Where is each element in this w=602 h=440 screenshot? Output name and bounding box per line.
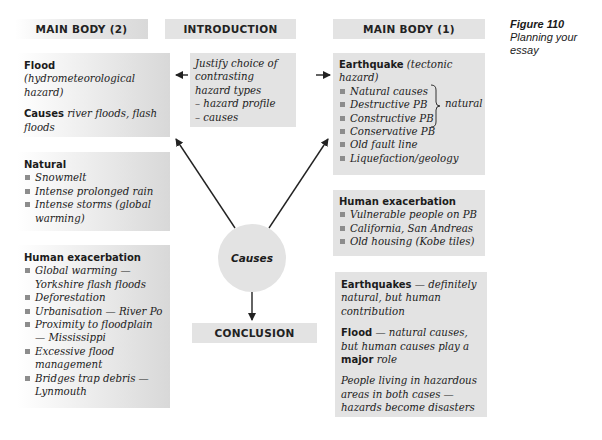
earthquake-list: Natural causes Destructive PB Constructi… (339, 85, 479, 165)
flood-human-title: Human exacerbation (24, 252, 141, 263)
conclusion-notes-box: Earthquakes — definitely natural, but hu… (335, 272, 487, 417)
flood-subtitle: (hydrometeorological hazard) (24, 73, 135, 97)
natural-title: Natural (24, 159, 66, 170)
flood-box: Flood (hydrometeorological hazard) Cause… (17, 53, 170, 137)
flood-human-exacerbation-box: Human exacerbation Global warming — York… (17, 245, 170, 408)
list-item: Intense storms (global warming) (24, 198, 163, 225)
list-item: Conservative PB (339, 125, 479, 138)
conclusion-major-label: major (341, 354, 373, 365)
list-item: Global warming — Yorkshire flash floods (24, 264, 163, 291)
list-item: Vulnerable people on PB (339, 208, 479, 221)
conclusion-flood-text-end: role (373, 354, 397, 365)
brace-icon (430, 84, 444, 128)
figure-title: Planning your essay (510, 31, 602, 57)
header-main-body-1: MAIN BODY (1) (333, 19, 485, 39)
natural-list: Snowmelt Intense prolonged rain Intense … (24, 171, 163, 225)
introduction-item: – causes (195, 111, 291, 124)
flood-causes-label: Causes (24, 108, 64, 119)
figure-number: Figure 110 (510, 18, 602, 31)
introduction-text: Justify choice of contrasting hazard typ… (195, 57, 291, 97)
list-item: Old fault line (339, 138, 479, 151)
list-item: Deforestation (24, 291, 163, 304)
introduction-box: Justify choice of contrasting hazard typ… (190, 53, 296, 127)
header-conclusion: CONCLUSION (192, 323, 317, 343)
brace-label: natural (445, 98, 483, 109)
introduction-item: – hazard profile (195, 97, 291, 110)
list-item: Excessive flood management (24, 345, 163, 372)
figure-caption: Figure 110 Planning your essay (510, 18, 602, 57)
list-item: Bridges trap debris — Lynmouth (24, 372, 163, 399)
list-item: Old housing (Kobe tiles) (339, 235, 479, 248)
arrow-upper-right-icon (269, 139, 328, 228)
earthquake-title: Earthquake (339, 59, 404, 70)
list-item: Intense prolonged rain (24, 185, 163, 198)
earthquake-human-title: Human exacerbation (339, 196, 456, 207)
conclusion-earthquakes-label: Earthquakes (341, 279, 412, 290)
list-item: California, San Andreas (339, 222, 479, 235)
list-item: Natural causes (339, 85, 479, 98)
list-item: Urbanisation — River Po (24, 305, 163, 318)
list-item: Proximity to floodplain — Mississippi (24, 318, 163, 345)
causes-circle: Causes (218, 224, 286, 292)
header-introduction: INTRODUCTION (165, 19, 296, 39)
conclusion-people-text: People living in hazardous areas in both… (341, 374, 481, 414)
list-item: Snowmelt (24, 171, 163, 184)
earthquake-human-list: Vulnerable people on PB California, San … (339, 208, 479, 248)
conclusion-flood-label: Flood (341, 327, 372, 338)
natural-causes-box: Natural Snowmelt Intense prolonged rain … (17, 152, 170, 231)
arrow-upper-left-icon (176, 139, 235, 228)
list-item: Constructive PB (339, 112, 479, 125)
list-item: Liquefaction/geology (339, 152, 479, 165)
header-main-body-2: MAIN BODY (2) (15, 19, 148, 39)
earthquake-human-exacerbation-box: Human exacerbation Vulnerable people on … (333, 190, 485, 256)
flood-title: Flood (24, 60, 55, 71)
earthquake-box: Earthquake (tectonic hazard) Natural cau… (333, 53, 485, 175)
flood-human-list: Global warming — Yorkshire flash floods … (24, 264, 163, 398)
